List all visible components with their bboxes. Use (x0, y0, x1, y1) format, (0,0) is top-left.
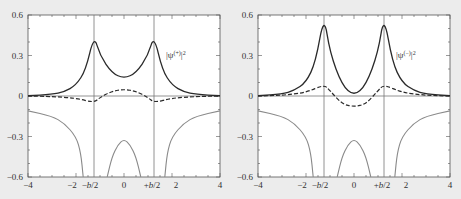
x-tick-label: +b/2 (374, 180, 391, 190)
x-tick-label: −4 (253, 180, 263, 190)
y-tick-label: −0.3 (237, 132, 254, 142)
x-tick-label: 4 (218, 180, 223, 190)
y-tick-label: −0.6 (7, 172, 24, 182)
y-tick-label: −0.6 (237, 172, 254, 182)
x-tick-label: 0 (352, 180, 357, 190)
y-tick-label: 0.3 (242, 51, 254, 61)
y-tick-label: −0.3 (7, 132, 24, 142)
x-tick-label: 2 (404, 180, 409, 190)
x-tick-label: −2 (297, 180, 307, 190)
x-tick-label: −2 (67, 180, 77, 190)
x-tick-label: 2 (174, 180, 179, 190)
y-tick-label: 0 (19, 91, 24, 101)
x-tick-label: +b/2 (144, 180, 161, 190)
x-tick-label: −b/2 (82, 180, 99, 190)
y-tick-label: 0.6 (12, 10, 24, 20)
x-tick-label: −4 (23, 180, 33, 190)
y-tick-label: 0.6 (242, 10, 254, 20)
figure: 0.60.30−0.3−0.6−4−2−b/20+b/224|ψ(+)|20.6… (0, 0, 461, 199)
plot-panel-left: 0.60.30−0.3−0.6−4−2−b/20+b/224|ψ(+)|2 (7, 10, 223, 190)
plot-panel-right: 0.60.30−0.3−0.6−4−2−b/20+b/224|ψ(−)|2 (237, 10, 453, 190)
y-tick-label: 0.3 (12, 51, 24, 61)
x-tick-label: 4 (448, 180, 453, 190)
x-tick-label: −b/2 (312, 180, 329, 190)
x-tick-label: 0 (122, 180, 127, 190)
y-tick-label: 0 (249, 91, 254, 101)
chart-canvas: 0.60.30−0.3−0.6−4−2−b/20+b/224|ψ(+)|20.6… (0, 0, 461, 199)
